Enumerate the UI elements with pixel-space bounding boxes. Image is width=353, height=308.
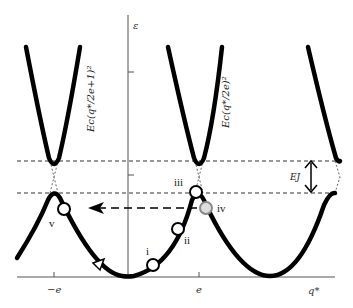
point-iv bbox=[200, 202, 212, 214]
point-label-ii: ii bbox=[184, 234, 190, 246]
x-tick-label-e: e bbox=[196, 284, 202, 295]
y-axis-label: ε bbox=[133, 20, 138, 31]
x-axis-label: q* bbox=[308, 285, 319, 296]
gap-label: EJ bbox=[289, 172, 302, 182]
point-v bbox=[58, 203, 70, 215]
upper-band-left bbox=[26, 47, 80, 164]
upper-band-middle bbox=[168, 47, 222, 164]
band-diagram: ε −e e q* Ec(q*/2e+1)² Ec(q*/2e)² EJ v i… bbox=[0, 0, 353, 308]
point-i bbox=[147, 259, 159, 271]
point-label-iii: iii bbox=[174, 176, 183, 188]
point-label-iv: iv bbox=[217, 202, 226, 214]
crossover-hint-right bbox=[335, 161, 340, 193]
x-tick-label-minus-e: −e bbox=[47, 284, 61, 295]
point-ii bbox=[172, 223, 184, 235]
point-label-i: i bbox=[146, 245, 149, 257]
upper-band-right bbox=[308, 47, 340, 162]
point-label-v: v bbox=[49, 217, 55, 229]
upper-middle-curve-label: Ec(q*/2e)² bbox=[220, 76, 231, 129]
upper-left-curve-label: Ec(q*/2e+1)² bbox=[85, 65, 96, 133]
point-iii bbox=[190, 186, 202, 198]
direction-arrow-icon bbox=[93, 259, 104, 270]
